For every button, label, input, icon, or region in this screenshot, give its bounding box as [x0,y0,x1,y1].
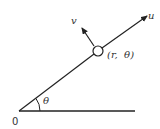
point-circle [93,46,103,56]
radial-line [19,54,94,111]
angle-label: θ [43,95,49,106]
v-vector-arrow [82,28,94,46]
u-label: u [148,10,154,21]
point-label: (r, θ) [107,49,134,60]
angle-arc [36,99,40,112]
polar-diagram: 0 θ (r, θ) u v [0,0,160,129]
u-vector-arrow [102,16,147,48]
v-label: v [71,15,77,26]
origin-label: 0 [12,116,18,127]
